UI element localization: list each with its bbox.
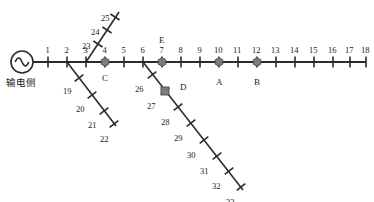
network-diagram: 输电侧2324251920212226272829303132331234567… (0, 0, 374, 202)
tick-node-23 (93, 41, 102, 47)
branch-line-2 (67, 62, 116, 126)
marker-a[interactable] (215, 58, 223, 67)
tick-node-24 (102, 27, 111, 33)
network-svg (0, 0, 374, 202)
marker-e[interactable] (158, 58, 166, 67)
tick-node-28 (174, 104, 183, 111)
sine-wave-icon (15, 58, 29, 66)
tick-node-22 (110, 121, 119, 128)
branch-line-3 (86, 12, 119, 62)
marker-b[interactable] (253, 58, 261, 67)
marker-d[interactable] (161, 87, 169, 95)
tick-node-19 (75, 75, 84, 82)
tick-node-30 (200, 137, 209, 144)
marker-c[interactable] (101, 58, 109, 67)
